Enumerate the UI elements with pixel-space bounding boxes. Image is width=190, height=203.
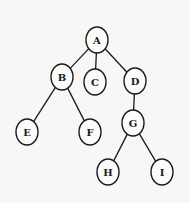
node-e: E bbox=[16, 119, 38, 145]
node-label: I bbox=[160, 167, 165, 178]
tree-diagram: ABCDEFGHI bbox=[0, 0, 190, 203]
node-h: H bbox=[97, 159, 119, 185]
edge-a-c bbox=[96, 53, 97, 69]
edge-a-d bbox=[105, 49, 127, 72]
edge-b-e bbox=[34, 87, 56, 121]
tree-svg: ABCDEFGHI bbox=[0, 0, 190, 203]
node-label: D bbox=[131, 76, 140, 87]
edge-g-h bbox=[114, 134, 128, 161]
edge-a-b bbox=[70, 49, 89, 69]
node-d: D bbox=[124, 68, 146, 94]
node-label: F bbox=[86, 127, 93, 138]
node-label: A bbox=[92, 35, 101, 46]
edge-g-i bbox=[139, 134, 155, 162]
node-label: C bbox=[91, 77, 99, 88]
node-label: G bbox=[129, 118, 138, 129]
nodes-layer: ABCDEFGHI bbox=[16, 27, 173, 185]
node-b: B bbox=[51, 64, 73, 90]
node-g: G bbox=[122, 110, 144, 136]
node-f: F bbox=[79, 119, 101, 145]
edge-b-f bbox=[68, 88, 85, 121]
node-label: E bbox=[23, 127, 31, 138]
node-c: C bbox=[84, 69, 106, 95]
edge-d-g bbox=[134, 94, 135, 110]
node-i: I bbox=[151, 159, 173, 185]
node-label: B bbox=[58, 72, 66, 83]
node-a: A bbox=[86, 27, 108, 53]
node-label: H bbox=[103, 167, 112, 178]
